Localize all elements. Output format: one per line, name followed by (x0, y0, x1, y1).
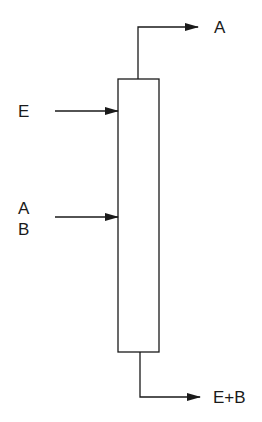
bottom-outlet-label: E+B (213, 388, 246, 407)
bottom-outlet-line (140, 352, 200, 397)
feed-inlet-label-a: A (18, 199, 30, 218)
solvent-inlet-label: E (18, 102, 29, 121)
top-outlet-label: A (214, 18, 226, 37)
extraction-column-diagram: A E A B E+B (0, 0, 262, 422)
feed-inlet-label-b: B (18, 220, 29, 239)
column-body (118, 79, 159, 352)
top-outlet-line (138, 27, 198, 79)
